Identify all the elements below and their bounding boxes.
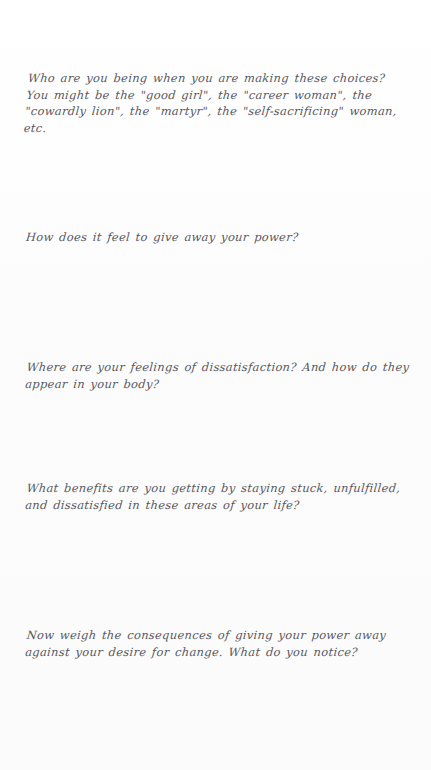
workbook-page: Who are you being when you are making th…: [0, 0, 431, 770]
answer-space-4[interactable]: [26, 516, 411, 621]
page-content: Who are you being when you are making th…: [0, 0, 431, 770]
prompt-feeling-power: How does it feel to give away your power…: [25, 229, 423, 246]
answer-space-3[interactable]: [26, 380, 411, 475]
answer-space-1[interactable]: [26, 122, 411, 222]
prompt-weigh-consequences: Now weigh the consequences of giving you…: [25, 627, 415, 660]
prompt-benefits: What benefits are you getting by staying…: [25, 480, 421, 513]
answer-space-2[interactable]: [26, 250, 411, 354]
answer-space-5[interactable]: [26, 665, 411, 760]
